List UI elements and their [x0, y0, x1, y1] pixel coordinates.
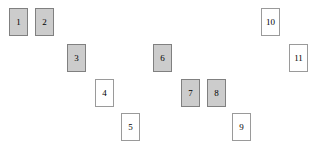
card-2[interactable]: 2 [35, 8, 54, 36]
card-label: 8 [214, 88, 219, 97]
card-label: 10 [266, 17, 275, 26]
card-10[interactable]: 10 [261, 8, 280, 36]
card-label: 5 [128, 122, 133, 131]
card-7[interactable]: 7 [181, 79, 200, 107]
card-8[interactable]: 8 [207, 79, 226, 107]
card-label: 9 [239, 122, 244, 131]
card-label: 11 [294, 53, 303, 62]
card-label: 6 [160, 53, 165, 62]
card-1[interactable]: 1 [9, 8, 28, 36]
card-label: 2 [42, 17, 47, 26]
card-label: 7 [188, 88, 193, 97]
card-label: 3 [74, 53, 79, 62]
card-label: 1 [16, 17, 21, 26]
card-11[interactable]: 11 [289, 44, 308, 72]
card-3[interactable]: 3 [67, 44, 86, 72]
card-5[interactable]: 5 [121, 113, 140, 141]
card-label: 4 [102, 88, 107, 97]
card-scene: 1234567891011 [0, 0, 320, 152]
card-9[interactable]: 9 [232, 113, 251, 141]
card-6[interactable]: 6 [153, 44, 172, 72]
card-4[interactable]: 4 [95, 79, 114, 107]
